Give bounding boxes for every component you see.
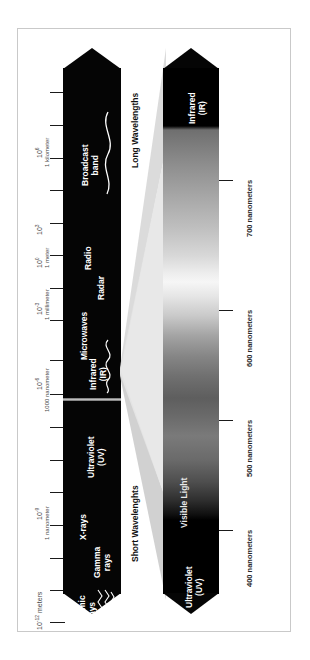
scale-exponent-label: 10-9 xyxy=(34,508,43,520)
nm-scale-label-400: 400 nanometers xyxy=(245,530,254,587)
nm-scale-tick xyxy=(219,420,233,421)
short-wave-icon xyxy=(93,588,117,634)
nm-scale-tick xyxy=(219,180,233,181)
visible-light-expansion-cone xyxy=(120,30,166,630)
visible-bar-label-ultraviolet: Ultraviolet(UV) xyxy=(185,566,205,608)
band-label-gamma: Gammarays xyxy=(93,547,113,578)
scale-unit-label: 1 nanometer xyxy=(44,506,50,540)
bar-arrow-head-top xyxy=(63,48,121,69)
em-spectrum-bar: Broadcastband Radio Radar Microwaves Inf… xyxy=(63,48,121,614)
nm-scale-tick xyxy=(219,530,233,531)
band-label-xrays: X-rays xyxy=(79,514,89,540)
visible-bar-body xyxy=(163,68,219,594)
visible-bar-arrow-head-top xyxy=(163,48,219,69)
spectrum-diagram-page: 106 1 kilometer 103 100 1 meter 10-3 1 m… xyxy=(0,0,310,660)
band-label-radar: Radar xyxy=(97,276,107,300)
scale-exponent-label: 10-12 meters xyxy=(34,592,43,630)
band-label-radio: Radio xyxy=(84,246,94,270)
visible-bar-label-infrared: Infrared(IR) xyxy=(188,92,208,124)
scale-exponent-label: 100 xyxy=(34,257,43,268)
medium-wave-icon xyxy=(97,338,119,394)
long-wave-icon xyxy=(97,110,119,196)
nm-scale-tick xyxy=(219,310,233,311)
scale-tick xyxy=(50,622,65,623)
visible-bar-label-visible-light: Visible Light xyxy=(180,478,190,528)
band-label-microwaves: Microwaves xyxy=(80,312,90,360)
band-label-ultraviolet: Ultraviolet(UV) xyxy=(87,436,107,478)
visible-light-bar: Infrared(IR) Visible Light Ultraviolet(U… xyxy=(163,48,219,614)
scale-exponent-label: 103 xyxy=(34,224,43,235)
nm-scale-label-600: 600 nanometers xyxy=(245,310,254,367)
wavelength-scale-meters: 106 1 kilometer 103 100 1 meter 10-3 1 m… xyxy=(22,30,68,630)
visible-light-origin-divider xyxy=(63,398,121,401)
scale-unit-label: 1000 nanometer xyxy=(44,368,50,412)
scale-unit-label: 1 kilometer xyxy=(44,138,50,167)
scale-unit-label: 1 millimeter xyxy=(44,289,50,320)
nm-scale-label-500: 500 nanometers xyxy=(245,420,254,477)
scale-exponent-label: 10-3 xyxy=(34,303,43,315)
scale-exponent-label: 106 xyxy=(34,147,43,158)
scale-exponent-label: 10-6 xyxy=(34,378,43,390)
scale-unit-label: 1 meter xyxy=(44,248,50,268)
wavelength-scale-nanometers: 700 nanometers 600 nanometers 500 nanome… xyxy=(219,30,279,630)
axis-label-short-wavelengths: Short Wavelenghts xyxy=(130,485,140,562)
nm-scale-label-700: 700 nanometers xyxy=(245,180,254,237)
axis-label-long-wavelengths: Long Wavelengths xyxy=(130,93,140,168)
